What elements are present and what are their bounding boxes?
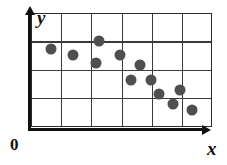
gridline-horizontal xyxy=(32,41,211,42)
x-axis-label: x xyxy=(207,139,217,158)
y-axis-label: y xyxy=(37,8,45,27)
data-point xyxy=(115,50,126,61)
data-point xyxy=(94,35,105,46)
data-point xyxy=(45,44,56,55)
data-point xyxy=(134,59,145,70)
gridline-horizontal xyxy=(32,98,211,99)
data-point xyxy=(90,57,101,68)
plot-area xyxy=(31,13,212,127)
origin-label: 0 xyxy=(10,136,19,153)
data-point xyxy=(68,49,79,60)
x-axis-arrow-icon xyxy=(202,125,211,135)
data-point xyxy=(145,74,156,85)
data-point xyxy=(154,89,165,100)
data-point xyxy=(186,105,197,116)
x-axis-line xyxy=(28,128,204,131)
data-point xyxy=(125,74,136,85)
y-axis-line xyxy=(28,14,31,131)
data-point xyxy=(174,85,185,96)
gridline-horizontal xyxy=(32,70,211,71)
data-point xyxy=(167,99,178,110)
scatter-plot-figure: y x 0 xyxy=(0,0,227,165)
y-axis-arrow-icon xyxy=(25,6,35,15)
